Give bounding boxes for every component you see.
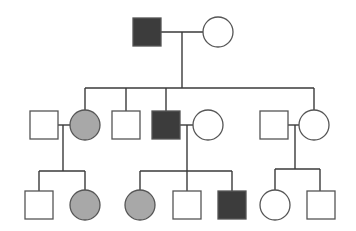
individual-II-4-male-affected (152, 111, 180, 139)
individual-III-1-male-unaffected (25, 191, 53, 219)
individual-I-2-female-unaffected (203, 17, 233, 47)
individual-III-5-male-affected (218, 191, 246, 219)
individuals (25, 17, 335, 220)
individual-II-5-female-unaffected (193, 110, 223, 140)
individual-II-7-female-unaffected (299, 110, 329, 140)
individual-III-4-male-unaffected (173, 191, 201, 219)
pedigree-diagram (0, 0, 356, 231)
individual-II-2-female-carrier (70, 110, 100, 140)
individual-III-6-female-unaffected (260, 190, 290, 220)
individual-II-3-male-unaffected (112, 111, 140, 139)
individual-II-1-male-unaffected (30, 111, 58, 139)
individual-III-3-female-carrier (125, 190, 155, 220)
individual-III-2-female-carrier (70, 190, 100, 220)
individual-III-7-male-unaffected (307, 191, 335, 219)
individual-I-1-male-affected (133, 18, 161, 46)
individual-II-6-male-unaffected (260, 111, 288, 139)
